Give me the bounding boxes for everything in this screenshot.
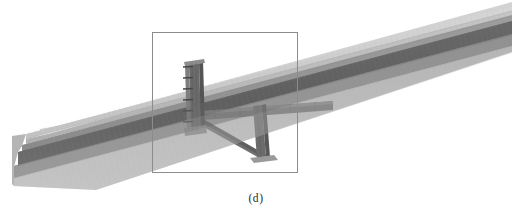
model-viewport xyxy=(0,0,512,196)
figure-caption: (d) xyxy=(0,192,512,204)
figure-panel: (d) xyxy=(0,0,512,220)
beam-3d-render xyxy=(0,0,512,196)
